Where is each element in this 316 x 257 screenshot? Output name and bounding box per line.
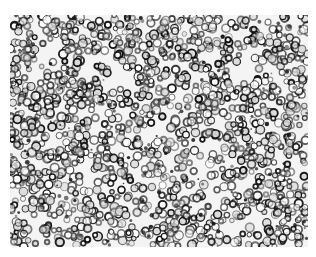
micrograph-image bbox=[10, 15, 308, 247]
micrograph-figure bbox=[10, 15, 308, 247]
figure-caption bbox=[28, 251, 298, 257]
